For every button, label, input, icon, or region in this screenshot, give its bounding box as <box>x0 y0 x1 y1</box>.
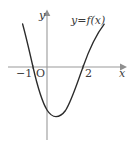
function-label: y=f(x) <box>71 15 105 26</box>
math-figure: −1 O 2 x y y=f(x) <box>0 0 134 145</box>
x-tick-label-neg-one: −1 <box>16 68 32 79</box>
x-axis-label: x <box>119 68 125 79</box>
origin-label: O <box>36 68 45 79</box>
y-axis-label: y <box>39 10 45 21</box>
x-tick-label-two: 2 <box>85 68 92 79</box>
